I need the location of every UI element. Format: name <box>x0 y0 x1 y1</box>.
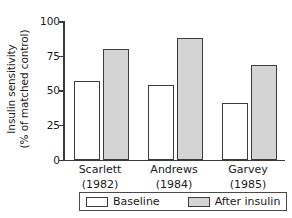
bar-garvey-baseline <box>222 103 248 160</box>
legend-item-baseline: Baseline <box>86 196 160 207</box>
y-axis-tick-labels: 0255075100 <box>32 0 60 218</box>
bars-container <box>64 21 285 160</box>
legend-item-after-insulin: After insulin <box>188 196 281 207</box>
bar-scarlett-after-insulin <box>103 49 129 160</box>
y-axis-tick-mark <box>59 21 64 23</box>
bar-andrews-baseline <box>148 85 174 160</box>
y-axis-tick-label: 0 <box>34 154 60 165</box>
x-axis-label-author: Garvey <box>211 163 285 178</box>
y-axis-tick-mark <box>59 56 64 58</box>
x-axis-label-author: Scarlett <box>63 163 137 178</box>
x-axis-label-year: (1984) <box>137 178 211 193</box>
bar-scarlett-baseline <box>74 81 100 160</box>
x-axis-label-year: (1985) <box>211 178 285 193</box>
y-axis-tick-label: 75 <box>34 50 60 61</box>
x-axis-label-garvey: Garvey(1985) <box>211 163 285 192</box>
plot-area <box>63 21 285 161</box>
x-axis-label-author: Andrews <box>137 163 211 178</box>
insulin-sensitivity-bar-chart: Insulin sensitivity (% of matched contro… <box>0 0 292 218</box>
x-axis-label-andrews: Andrews(1984) <box>137 163 211 192</box>
y-axis-title: Insulin sensitivity (% of matched contro… <box>0 14 34 164</box>
legend-swatch-after-insulin <box>188 197 210 207</box>
x-axis-label-scarlett: Scarlett(1982) <box>63 163 137 192</box>
legend-swatch-baseline <box>86 197 108 207</box>
y-axis-tick-label: 50 <box>34 85 60 96</box>
y-axis-tick-label: 100 <box>34 16 60 27</box>
y-axis-tick-mark <box>59 160 64 162</box>
bar-andrews-after-insulin <box>177 38 203 160</box>
y-axis-tick-mark <box>59 90 64 92</box>
legend-label-after-insulin: After insulin <box>215 196 281 207</box>
y-axis-title-line-2: (% of matched control) <box>17 30 30 149</box>
bar-garvey-after-insulin <box>251 65 277 159</box>
y-axis-title-line-1: Insulin sensitivity <box>5 30 18 149</box>
legend-label-baseline: Baseline <box>113 196 160 207</box>
y-axis-tick-mark <box>59 125 64 127</box>
y-axis-tick-label: 25 <box>34 120 60 131</box>
chart-legend: Baseline After insulin <box>79 192 287 211</box>
x-axis-label-year: (1982) <box>63 178 137 193</box>
x-axis-line <box>63 160 285 162</box>
